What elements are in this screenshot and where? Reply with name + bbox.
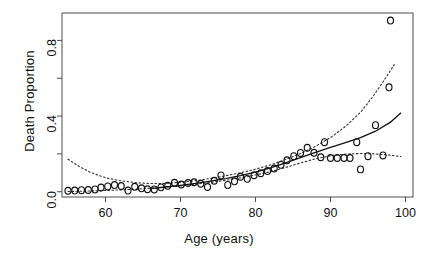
data-point-marker <box>341 155 347 162</box>
y-tick-label: 0.0 <box>45 191 59 225</box>
data-point-marker <box>72 187 78 194</box>
data-point-marker <box>334 155 340 162</box>
data-point-marker <box>85 187 91 194</box>
data-point-marker <box>79 187 85 194</box>
x-axis-title: Age (years) <box>0 231 438 246</box>
data-point-marker <box>65 187 71 194</box>
data-point-marker <box>125 187 131 194</box>
data-point-marker <box>98 184 104 191</box>
data-point-marker <box>238 173 244 180</box>
plot-canvas <box>0 0 438 258</box>
plot-frame <box>62 13 413 197</box>
data-point-marker <box>225 182 231 189</box>
data-point-marker <box>118 183 124 190</box>
data-point-marker <box>380 152 386 159</box>
y-tick-label: 0.4 <box>45 115 59 149</box>
x-tick-label: 60 <box>86 206 126 220</box>
plot-border <box>62 13 413 197</box>
y-tick-label: 0.8 <box>45 39 59 73</box>
data-point-marker <box>358 166 364 173</box>
data-point-marker <box>92 186 98 193</box>
data-point-marker <box>232 178 238 185</box>
data-point-marker <box>191 179 197 186</box>
x-axis-ticks <box>106 197 406 202</box>
data-point-marker <box>218 172 224 179</box>
x-tick-label: 80 <box>236 206 276 220</box>
x-tick-label: 70 <box>161 206 201 220</box>
data-point-marker <box>205 184 211 191</box>
data-point-marker <box>105 183 111 190</box>
data-point-marker <box>386 84 392 91</box>
data-points <box>65 17 394 194</box>
data-point-marker <box>151 186 157 193</box>
data-point-marker <box>388 17 394 24</box>
fitted-curve <box>151 113 402 189</box>
y-axis-title: Death Proportion <box>22 6 37 196</box>
death-proportion-scatter-chart: Age (years) Death Proportion 60708090100… <box>0 0 438 258</box>
data-point-marker <box>373 122 379 129</box>
x-tick-label: 90 <box>311 206 351 220</box>
data-point-marker <box>132 183 138 190</box>
data-point-marker <box>354 139 360 146</box>
data-point-marker <box>145 186 151 193</box>
data-point-marker <box>347 155 353 162</box>
x-tick-label: 100 <box>386 206 426 220</box>
upper-confidence-band <box>68 65 394 184</box>
data-point-marker <box>291 153 297 160</box>
data-point-marker <box>112 182 118 189</box>
